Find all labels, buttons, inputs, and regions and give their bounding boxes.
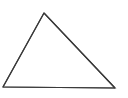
triangle-diagram — [0, 0, 128, 98]
triangle — [3, 13, 115, 88]
